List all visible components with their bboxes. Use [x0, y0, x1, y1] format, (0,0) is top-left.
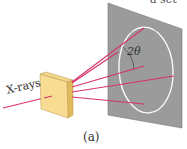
figure-caption: (a) — [83, 130, 100, 144]
angle-label: 2θ — [127, 45, 141, 58]
xray-diffraction-diagram: a set X-rays 2θ (a) — [0, 0, 187, 149]
cut-off-text: a set — [150, 0, 177, 6]
diagram-svg — [0, 0, 187, 149]
